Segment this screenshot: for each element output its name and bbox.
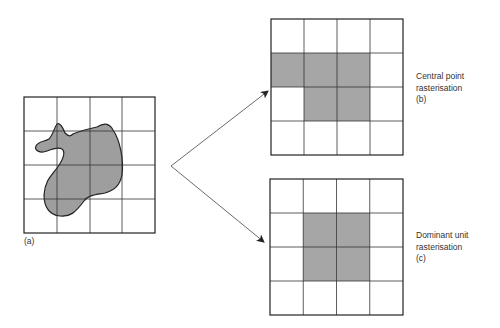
shaded-cell (304, 87, 337, 121)
caption-c-line1: Dominant unit (416, 230, 468, 242)
source-grid-a (24, 97, 155, 233)
arrow-to-c (171, 166, 264, 242)
central-point-grid-b (271, 19, 403, 155)
shaded-cell (337, 213, 370, 247)
shaded-cell (337, 53, 370, 87)
polygon-blob (36, 124, 123, 217)
caption-b-tag: (b) (416, 94, 464, 106)
caption-c-line2: rasterisation (416, 242, 468, 254)
arrow-to-b (171, 91, 268, 166)
caption-c-tag: (c) (416, 253, 468, 265)
caption-b: Central point rasterisation (b) (416, 71, 464, 106)
shaded-cell (271, 53, 304, 87)
diagram-canvas (0, 0, 500, 328)
shaded-cell (304, 53, 337, 87)
caption-c: Dominant unit rasterisation (c) (416, 230, 468, 265)
caption-b-line1: Central point (416, 71, 464, 83)
label-a: (a) (24, 236, 34, 248)
shaded-cell (337, 87, 370, 121)
shaded-cell (303, 213, 336, 247)
label-a-text: (a) (24, 236, 34, 248)
dominant-unit-grid-c (270, 179, 403, 315)
shaded-cell (303, 247, 336, 281)
caption-b-line2: rasterisation (416, 83, 464, 95)
shaded-cell (337, 247, 370, 281)
